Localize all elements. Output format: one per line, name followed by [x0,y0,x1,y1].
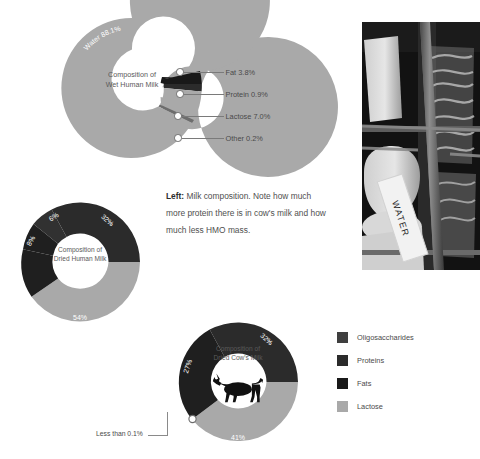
callout-leader-line [184,72,224,73]
legend-item-fats: Fats [337,372,467,395]
less-than-label: Less than 0.1% [96,430,143,437]
slice-oligosaccharides-32 [52,203,140,262]
chart-legend: Oligosaccharides Proteins Fats Lactose [337,326,467,418]
dishwasher-rack-photo: WATER [362,22,480,270]
figure-caption: Left: Milk composition. Note how much mo… [166,188,326,240]
legend-swatch-icon [337,332,348,343]
legend-swatch-icon [337,378,348,389]
callout-other-label: Other 0.2% [226,134,263,143]
cow-callout-dot-icon [189,415,196,422]
legend-item-oligosaccharides: Oligosaccharides [337,326,467,349]
caption-lead: Left: [166,191,184,201]
callout-lactose-label: Lactose 7.0% [226,112,271,121]
legend-label: Oligosaccharides [357,333,414,342]
annotation-leader-horizontal [148,435,168,436]
callout-dot-icon [174,112,182,120]
legend-swatch-icon [337,355,348,366]
donut-chart-dried-human-milk: 32% 6% 8% 54% Composition of Dried Human… [10,192,150,332]
callout-leader-line [182,116,224,117]
callout-protein: Protein 0.9% [176,88,268,100]
callout-fat-label: Fat 3.8% [226,68,256,77]
callout-fat: Fat 3.8% [176,66,255,78]
legend-label: Lactose [357,402,383,411]
photo-graphic: WATER [362,22,480,270]
infographic-canvas: Water 88.1% Composition of Wet Human Mil… [0,0,480,459]
dried-human-label-54: 54% [73,314,87,321]
legend-swatch-icon [337,401,348,412]
legend-label: Fats [357,379,371,388]
callout-dot-icon [174,134,182,142]
callout-other: Other 0.2% [174,132,263,144]
cow-less-than-annotation: Less than 0.1% [96,424,216,446]
callout-protein-label: Protein 0.9% [226,90,268,99]
callout-dot-icon [176,90,184,98]
legend-label: Proteins [357,356,384,365]
annotation-leader-vertical [167,412,168,436]
cow-icon [212,370,264,404]
cow-label-41: 41% [231,434,245,441]
legend-item-proteins: Proteins [337,349,467,372]
callout-dot-icon [176,68,184,76]
callout-leader-line [182,138,224,139]
callout-lactose: Lactose 7.0% [174,110,270,122]
wet-human-milk-callouts: Fat 3.8% Protein 0.9% Lactose 7.0% Other… [176,55,326,135]
callout-leader-line [184,94,224,95]
dried-human-milk-svg: 32% 6% 8% 54% [10,192,150,332]
legend-item-lactose: Lactose [337,395,467,418]
caption-body: Milk composition. Note how much more pro… [166,191,326,235]
